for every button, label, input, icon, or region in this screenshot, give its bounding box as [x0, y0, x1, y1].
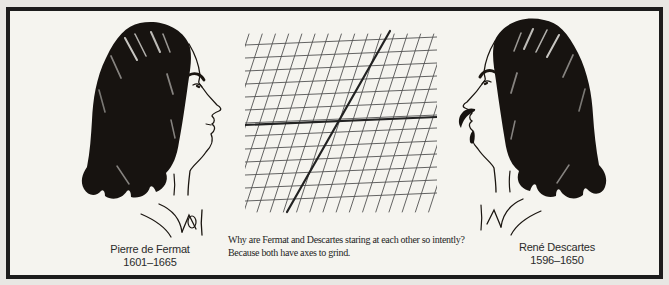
fermat-hair	[82, 22, 191, 199]
coordinate-grid	[245, 26, 437, 214]
descartes-goatee	[470, 131, 475, 144]
descartes-name: René Descartes	[495, 241, 619, 254]
descartes-collar	[481, 199, 541, 235]
descartes-years: 1596–1650	[495, 254, 619, 267]
descartes-pupil	[485, 83, 487, 84]
fermat-portrait	[63, 16, 238, 238]
figure-caption: Why are Fermat and Descartes staring at …	[228, 233, 490, 259]
cartoon-figure: Pierre de Fermat 1601–1665 Why are Ferma…	[0, 0, 669, 285]
fermat-pupil	[197, 86, 199, 87]
descartes-neck-line	[509, 171, 510, 192]
fermat-years: 1601–1665	[88, 256, 212, 269]
caption-line-2: Because both have axes to grind.	[228, 246, 490, 259]
caption-line-1: Why are Fermat and Descartes staring at …	[228, 233, 490, 246]
fermat-neck-line	[174, 174, 175, 195]
fermat-collar	[141, 204, 202, 237]
descartes-label: René Descartes 1596–1650	[495, 241, 619, 266]
descartes-portrait	[441, 13, 621, 239]
fermat-name: Pierre de Fermat	[88, 243, 212, 256]
fermat-label: Pierre de Fermat 1601–1665	[88, 243, 212, 268]
